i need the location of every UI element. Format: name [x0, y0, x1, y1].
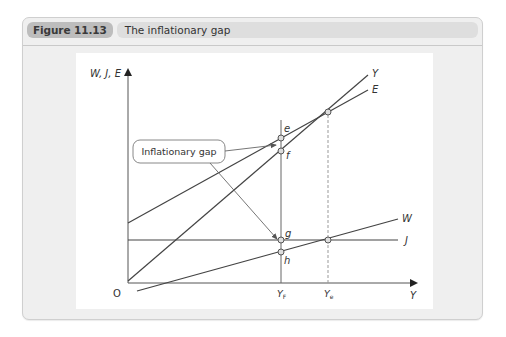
line-E-label: E: [372, 84, 379, 95]
line-W: [137, 219, 398, 291]
yf-tick-label: YF: [277, 288, 287, 300]
point-e: [278, 135, 284, 141]
point-f-label: f: [286, 150, 291, 161]
point-equilibrium-YE: [325, 109, 331, 115]
x-axis-label: Y: [410, 290, 417, 301]
gap-arrow-ef: [225, 145, 276, 151]
point-e-label: e: [284, 123, 290, 134]
line-J-label: J: [403, 235, 408, 246]
point-h-label: h: [284, 255, 290, 266]
gap-arrow-gh: [210, 163, 277, 239]
line-Y: [128, 75, 368, 281]
point-g-label: g: [285, 228, 291, 239]
point-g: [278, 237, 284, 243]
origin-label: O: [113, 288, 121, 299]
point-f: [278, 148, 284, 154]
point-equilibrium-WJ: [325, 237, 331, 243]
inflationary-gap-chart: W, J, E O Y Y E W J Inflationary gap e f…: [0, 0, 506, 337]
line-W-label: W: [402, 213, 413, 224]
ye-tick-label: Ye: [324, 288, 334, 300]
y-axis-label: W, J, E: [90, 68, 122, 79]
line-Y-label: Y: [372, 68, 379, 79]
inflationary-gap-label: Inflationary gap: [141, 146, 216, 157]
